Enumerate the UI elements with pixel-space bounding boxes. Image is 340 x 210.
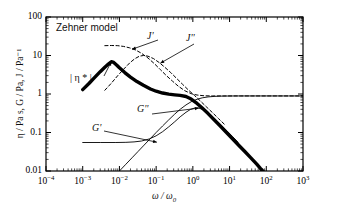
series-label-j-double-prime: J'' [186, 32, 195, 43]
x-tick-label: 100 [181, 174, 205, 186]
series-label-g-prime: G' [92, 122, 101, 133]
x-tick-label: 101 [218, 174, 242, 186]
x-tick-label: 103 [291, 174, 315, 186]
x-tick-label: 10−2 [107, 174, 131, 186]
series-label-g-double-prime: G'' [137, 103, 149, 114]
y-tick-label: 1 [0, 88, 42, 98]
y-tick-label: 0.1 [0, 127, 42, 137]
x-tick-label: 102 [254, 174, 278, 186]
x-axis-title: ω / ω0 [152, 191, 176, 203]
x-tick-label: 10−4 [34, 174, 58, 186]
y-tick-label: 0.01 [0, 165, 42, 175]
x-tick-label: 10−3 [71, 174, 95, 186]
series-label-j-prime: J' [147, 30, 154, 41]
y-tick-label: 100 [0, 11, 42, 21]
figure-zehner-model: Zehner model J' J'' | η * | G' G'' ω / ω… [0, 0, 340, 210]
model-title-label: Zehner model [56, 22, 118, 33]
y-tick-label: 10 [0, 50, 42, 60]
series-label-eta-star: | η * | [70, 72, 92, 83]
x-tick-label: 10−1 [144, 174, 168, 186]
